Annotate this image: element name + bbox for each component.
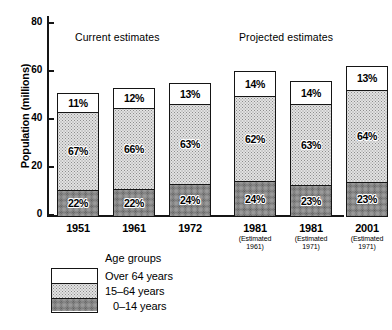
bar-1981-est1961-segment-0-14: 24% xyxy=(234,182,276,217)
legend-swatch-0-14 xyxy=(52,299,97,311)
bar-1981-est1961-segment-over64: 14% xyxy=(234,71,276,97)
x-sublabel-1981-est1961: (Estimated 1961) xyxy=(225,235,285,251)
y-tick-80 xyxy=(47,22,54,24)
bar-1951-label-0-14: 22% xyxy=(67,198,89,209)
y-tick-60 xyxy=(47,70,54,72)
bar-1961-segment-15-64: 66% xyxy=(113,109,155,190)
y-tick-40 xyxy=(47,118,54,120)
legend-label-15-64: 15–64 years xyxy=(105,285,164,297)
bar-1972-segment-0-14: 24% xyxy=(169,185,211,217)
y-axis-title: Population (millions) xyxy=(19,31,31,201)
bar-1951-segment-15-64: 67% xyxy=(57,113,99,191)
bar-1972-label-over64: 13% xyxy=(179,89,201,100)
bar-1981-est1971-label-0-14: 23% xyxy=(300,196,322,207)
bar-2001-est1971: 13% 64% 23% xyxy=(346,66,388,217)
x-label-2001-est1971: 2001 xyxy=(341,222,392,234)
bar-1981-est1961: 14% 62% 24% xyxy=(234,71,276,217)
y-axis-line xyxy=(47,16,49,216)
bar-2001-est1971-label-over64: 13% xyxy=(356,73,378,84)
bar-2001-est1971-segment-0-14: 23% xyxy=(346,183,388,217)
bar-1972-label-0-14: 24% xyxy=(179,195,201,206)
bar-1981-est1971-segment-15-64: 63% xyxy=(290,105,332,186)
bar-2001-est1971-label-0-14: 23% xyxy=(356,194,378,205)
x-label-1981-est1961: 1981 xyxy=(229,222,281,234)
bar-2001-est1971-label-15-64: 64% xyxy=(356,131,378,142)
legend-title: Age groups xyxy=(105,252,161,264)
legend-swatch-over64 xyxy=(52,269,97,284)
bar-1981-est1971-label-over64: 14% xyxy=(300,88,322,99)
bar-1981-est1961-label-15-64: 62% xyxy=(244,134,266,145)
x-label-1961: 1961 xyxy=(108,222,160,234)
bar-1981-est1971-segment-0-14: 23% xyxy=(290,186,332,217)
legend-label-0-14: 0–14 years xyxy=(113,300,166,312)
legend-swatch-15-64 xyxy=(52,284,97,299)
bar-1961-label-0-14: 22% xyxy=(123,198,145,209)
bar-1981-est1961-segment-15-64: 62% xyxy=(234,97,276,182)
section-header-projected: Projected estimates xyxy=(239,31,333,43)
bar-1961-segment-over64: 12% xyxy=(113,88,155,109)
bar-1972-label-15-64: 63% xyxy=(179,139,201,150)
bar-1981-est1971-segment-over64: 14% xyxy=(290,81,332,105)
legend-label-over64: Over 64 years xyxy=(105,270,173,282)
bar-1961-label-15-64: 66% xyxy=(123,144,145,155)
bar-1972-segment-over64: 13% xyxy=(169,83,211,105)
bar-1981-est1961-label-over64: 14% xyxy=(244,79,266,90)
bar-1981-est1971-label-15-64: 63% xyxy=(300,140,322,151)
y-tick-label-0: 0 xyxy=(12,209,42,219)
bar-1972: 13% 63% 24% xyxy=(169,83,211,217)
y-tick-label-80: 80 xyxy=(12,17,42,27)
bar-1972-segment-15-64: 63% xyxy=(169,105,211,185)
bar-2001-est1971-segment-15-64: 64% xyxy=(346,91,388,183)
x-label-1972: 1972 xyxy=(164,222,216,234)
bar-1951-label-15-64: 67% xyxy=(67,146,89,157)
x-label-1981-est1971: 1981 xyxy=(285,222,337,234)
x-sublabel-2001-est1971: (Estimated 1971) xyxy=(337,235,392,251)
bar-1951-segment-over64: 11% xyxy=(57,93,99,113)
bar-2001-est1971-segment-over64: 13% xyxy=(346,66,388,91)
bar-1961: 12% 66% 22% xyxy=(113,88,155,217)
section-header-current: Current estimates xyxy=(75,31,160,43)
y-tick-20 xyxy=(47,166,54,168)
bar-1961-label-over64: 12% xyxy=(123,93,145,104)
x-sublabel-1981-est1971: (Estimated 1971) xyxy=(281,235,341,251)
bar-1951: 11% 67% 22% xyxy=(57,93,99,217)
bar-1961-segment-0-14: 22% xyxy=(113,190,155,217)
bar-1981-est1961-label-0-14: 24% xyxy=(244,194,266,205)
x-label-1951: 1951 xyxy=(52,222,104,234)
bar-1981-est1971: 14% 63% 23% xyxy=(290,81,332,217)
legend-swatch-stack xyxy=(51,268,98,313)
bar-1951-label-over64: 11% xyxy=(67,98,89,109)
bar-1951-segment-0-14: 22% xyxy=(57,191,99,217)
y-tick-0 xyxy=(47,214,54,216)
